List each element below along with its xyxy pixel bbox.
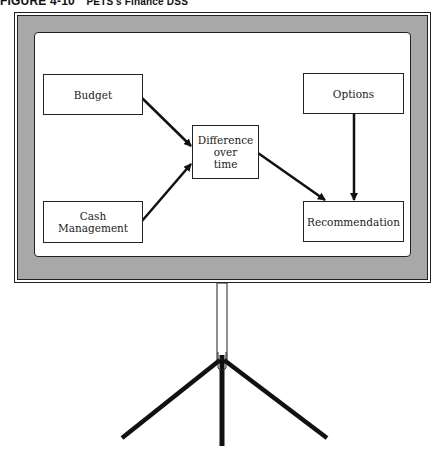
arrow-difference-to-recommendation [258, 153, 325, 200]
node-budget-label: Budget [74, 89, 112, 101]
node-difference-line-2: over [214, 146, 238, 158]
node-cash-management: Cash Management [43, 201, 143, 243]
node-budget: Budget [43, 74, 143, 115]
node-cash-management-label: Cash Management [58, 210, 128, 234]
arrow-cash-to-difference [142, 164, 191, 221]
node-recommendation: Recommendation [303, 201, 404, 242]
stand-pole [217, 283, 227, 363]
node-options-label: Options [333, 88, 374, 100]
node-options: Options [303, 73, 404, 114]
node-difference-over-time: Difference over time [192, 125, 259, 179]
node-recommendation-label: Recommendation [307, 216, 400, 228]
tripod-leg-right [224, 360, 327, 438]
arrow-budget-to-difference [142, 98, 191, 146]
node-difference-line-1: Difference [198, 134, 254, 146]
node-difference-line-3: time [214, 158, 238, 170]
tripod-leg-left [122, 360, 220, 438]
